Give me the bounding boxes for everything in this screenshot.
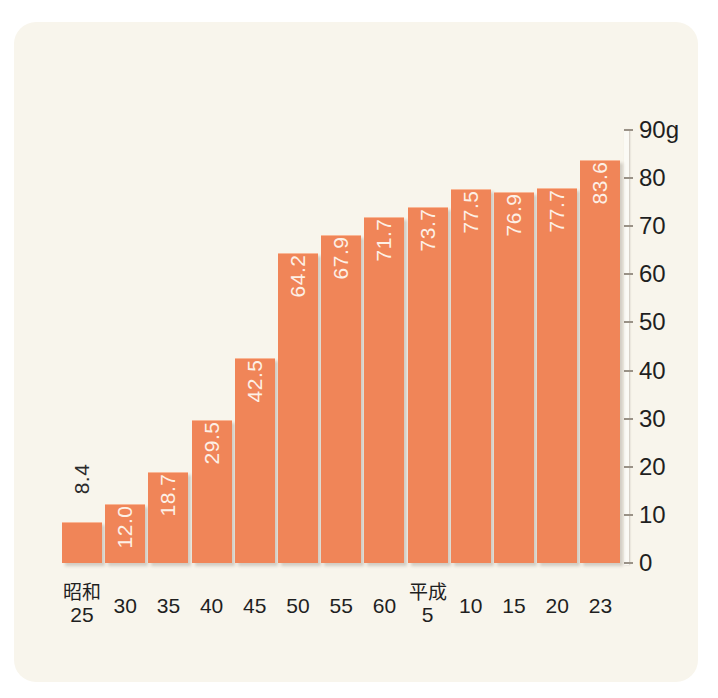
- bar-rect[interactable]: [321, 235, 361, 563]
- bar-item[interactable]: 18.7: [148, 473, 188, 563]
- bar-rect[interactable]: [537, 188, 577, 563]
- y-axis-tick: [624, 514, 633, 516]
- y-axis-tick: [624, 321, 633, 323]
- bar-rect[interactable]: [278, 253, 318, 563]
- bar-rect[interactable]: [580, 160, 620, 563]
- bar-value-label: 64.2: [286, 255, 310, 298]
- y-axis-tick-label: 60: [639, 260, 666, 288]
- y-axis-tick-label: 0: [639, 549, 652, 577]
- y-axis-tick-label: 90g: [639, 116, 679, 144]
- bar-item[interactable]: 76.9: [494, 193, 534, 563]
- y-axis-tick-label: 50: [639, 308, 666, 336]
- bar-item[interactable]: 73.7: [408, 208, 448, 563]
- bar-item[interactable]: 29.5: [192, 421, 232, 563]
- y-axis-tick: [624, 129, 633, 131]
- bar-item[interactable]: 64.2: [278, 254, 318, 563]
- y-axis-tick-label: 70: [639, 212, 666, 240]
- bar-item[interactable]: 67.9: [321, 236, 361, 563]
- plot-area: 0102030405060708090g 8.412.018.729.542.5…: [0, 0, 718, 698]
- bar-value-label: 18.7: [156, 474, 180, 517]
- y-axis-tick-label: 20: [639, 453, 666, 481]
- chart-page: 0102030405060708090g 8.412.018.729.542.5…: [0, 0, 718, 698]
- bar-value-label: 29.5: [200, 422, 224, 465]
- bar-value-label: 12.0: [113, 506, 137, 549]
- y-axis-tick: [624, 562, 633, 564]
- y-axis-tick: [624, 370, 633, 372]
- bar-value-label: 76.9: [502, 194, 526, 237]
- y-axis-tick: [624, 273, 633, 275]
- bar-item[interactable]: 77.5: [451, 190, 491, 563]
- y-axis-tick: [624, 225, 633, 227]
- y-axis-tick-label: 30: [639, 405, 666, 433]
- bar-rect[interactable]: [364, 217, 404, 563]
- y-axis-tick-label: 80: [639, 164, 666, 192]
- bar-value-label: 73.7: [416, 209, 440, 252]
- bar-rect[interactable]: [451, 189, 491, 563]
- bar-value-label: 77.7: [545, 190, 569, 233]
- bar-value-label: 83.6: [588, 161, 612, 204]
- bar-item[interactable]: 71.7: [364, 218, 404, 563]
- y-axis-tick-label: 40: [639, 357, 666, 385]
- x-axis-year-label: 23: [566, 595, 634, 618]
- bar-rect[interactable]: [62, 522, 102, 563]
- bar-rect[interactable]: [408, 207, 448, 563]
- bar-item[interactable]: 42.5: [235, 359, 275, 563]
- bar-value-label: 77.5: [459, 191, 483, 234]
- y-axis-tick: [624, 466, 633, 468]
- bar-item[interactable]: 83.6: [580, 161, 620, 563]
- bar-item[interactable]: 77.7: [537, 189, 577, 563]
- bar-value-label: 71.7: [372, 219, 396, 262]
- bar-value-label: 8.4: [70, 463, 94, 494]
- bar-rect[interactable]: [494, 192, 534, 563]
- bar-item[interactable]: 8.4: [62, 523, 102, 563]
- y-axis-tick: [624, 418, 633, 420]
- bar-value-label: 42.5: [243, 359, 267, 402]
- bar-value-label: 67.9: [329, 237, 353, 280]
- y-axis-tick: [624, 177, 633, 179]
- bar-item[interactable]: 12.0: [105, 505, 145, 563]
- x-axis-label: 23: [566, 595, 634, 618]
- y-axis-tick-label: 10: [639, 501, 666, 529]
- y-axis-line: [624, 130, 629, 565]
